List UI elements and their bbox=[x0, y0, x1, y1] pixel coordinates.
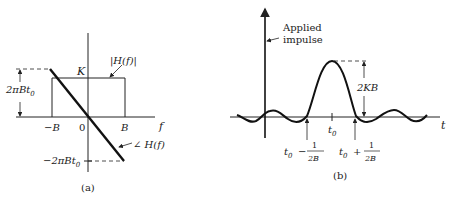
filter-response-diagram: K |H(f)| ∠ H(f) −B 0 B f 2πBt0 −2πBt0 (a… bbox=[0, 0, 454, 203]
svg-text:t0: t0 bbox=[284, 146, 293, 160]
t-axis-label: t bbox=[441, 119, 446, 132]
svg-text:1: 1 bbox=[312, 141, 317, 150]
figure-a: K |H(f)| ∠ H(f) −B 0 B f 2πBt0 −2πBt0 (a… bbox=[5, 33, 165, 193]
svg-text:t0: t0 bbox=[339, 146, 348, 160]
svg-text:+: + bbox=[353, 146, 361, 157]
figure-b: Applied impulse 2KB t t0 t0 − 1 2B t0 + … bbox=[230, 9, 446, 181]
phase-pointer bbox=[119, 143, 132, 147]
phase-bottom-value-label: −2πBt0 bbox=[43, 155, 81, 169]
magnitude-label: |H(f)| bbox=[110, 55, 137, 67]
tick-neg-b-label: −B bbox=[44, 122, 60, 133]
svg-text:2B: 2B bbox=[307, 154, 319, 163]
tick-b-label: B bbox=[120, 122, 128, 133]
left-zero-label: t0 − 1 2B bbox=[284, 141, 324, 163]
center-tick-label: t0 bbox=[328, 124, 337, 138]
impulse-pointer bbox=[267, 38, 279, 41]
impulse-label-line2: impulse bbox=[283, 34, 323, 45]
phase-top-value-label: 2πBt0 bbox=[5, 84, 35, 98]
caption-a: (a) bbox=[81, 182, 95, 193]
svg-text:2B: 2B bbox=[364, 154, 376, 163]
tick-zero-label: 0 bbox=[79, 122, 85, 133]
f-axis-label: f bbox=[158, 120, 165, 133]
phase-label: ∠ H(f) bbox=[133, 139, 165, 150]
caption-b: (b) bbox=[333, 170, 347, 181]
magnitude-pointer bbox=[110, 65, 122, 77]
svg-text:−: − bbox=[298, 146, 306, 157]
right-zero-label: t0 + 1 2B bbox=[339, 141, 380, 163]
phase-response bbox=[50, 69, 124, 161]
svg-text:1: 1 bbox=[369, 141, 374, 150]
level-k-label: K bbox=[76, 65, 86, 78]
peak-value-label: 2KB bbox=[356, 82, 378, 93]
impulse-label-line1: Applied bbox=[282, 22, 322, 33]
